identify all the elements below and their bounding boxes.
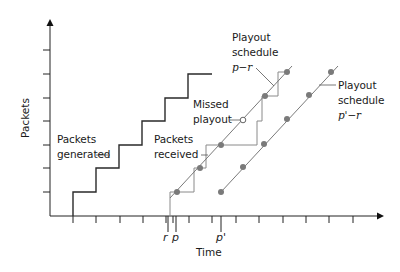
playout-schedule-2-label: Playout schedule p'−r	[338, 78, 384, 123]
playout-point	[284, 116, 290, 122]
label-line: Playout	[232, 30, 278, 45]
p-tick-label: p	[172, 231, 179, 244]
label-line: generated	[57, 147, 110, 162]
p-prime-tick-label: p'	[216, 231, 226, 244]
r-tick-label: r	[163, 231, 168, 244]
playout-point	[261, 141, 267, 147]
playout-point	[262, 93, 268, 99]
y-axis-title: Packets	[19, 98, 31, 138]
label-line: Missed	[193, 97, 232, 112]
label-line: Packets	[57, 132, 110, 147]
label-line: Playout	[338, 78, 384, 93]
playout-point	[306, 92, 312, 98]
playout-point	[174, 189, 180, 195]
x-axis-arrow-icon	[377, 213, 384, 220]
label-line: Packets	[154, 132, 198, 147]
playout-point	[197, 165, 203, 171]
playout-point	[284, 69, 290, 75]
label-line: schedule	[232, 45, 278, 60]
packets-received-label: Packets received	[154, 132, 198, 162]
x-axis-title: Time	[196, 246, 222, 258]
playout-point	[218, 189, 224, 195]
label-line: p'−r	[338, 108, 384, 123]
x-ticks	[73, 216, 353, 223]
label-line: schedule	[338, 93, 384, 108]
y-ticks	[43, 50, 50, 192]
missed-playout-point	[240, 117, 246, 123]
playout-schedule-1-label: Playout schedule p−r	[232, 30, 278, 75]
playout-point	[218, 142, 224, 148]
playout-point	[328, 69, 334, 75]
label-line: p−r	[232, 60, 278, 75]
diagram-canvas: Packets Time r p p' Packets generated Pa…	[0, 0, 400, 272]
label-line: received	[154, 147, 198, 162]
playout-point	[240, 164, 246, 170]
packets-generated-label: Packets generated	[57, 132, 110, 162]
missed-playout-label: Missed playout	[193, 97, 232, 127]
y-axis-arrow-icon	[47, 19, 54, 26]
label-line: playout	[193, 112, 232, 127]
